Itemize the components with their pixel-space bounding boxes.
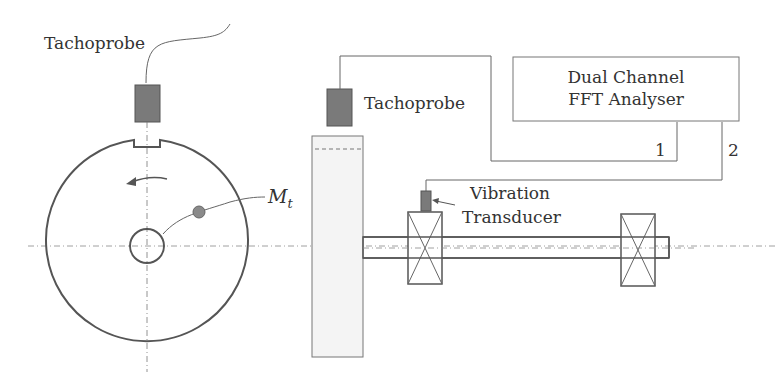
vibration-transducer bbox=[421, 191, 431, 211]
mass-label: Mt bbox=[268, 186, 293, 214]
transducer-label-line1: Vibration bbox=[470, 183, 550, 203]
diagram-canvas bbox=[0, 0, 777, 391]
trial-mass bbox=[193, 206, 205, 218]
tachoprobe-label-right: Tachoprobe bbox=[364, 93, 465, 113]
mass-leader-line bbox=[163, 197, 265, 234]
channel-2-label: 2 bbox=[728, 140, 739, 160]
analyser-label-line1: Dual Channel bbox=[513, 67, 739, 87]
tachoprobe-block-left bbox=[135, 85, 160, 122]
analyser-label-line2: FFT Analyser bbox=[513, 89, 739, 109]
cable-channel-2 bbox=[426, 122, 722, 192]
tachoprobe-block-right bbox=[327, 89, 352, 126]
probe-cable bbox=[146, 24, 230, 83]
rotation-arrow-icon bbox=[132, 178, 167, 182]
bearing-2 bbox=[621, 214, 655, 286]
channel-1-label: 1 bbox=[655, 140, 666, 160]
transducer-label-line2: Transducer bbox=[462, 207, 561, 227]
tachoprobe-label-left: Tachoprobe bbox=[44, 33, 145, 53]
disc-side-view bbox=[312, 136, 363, 357]
